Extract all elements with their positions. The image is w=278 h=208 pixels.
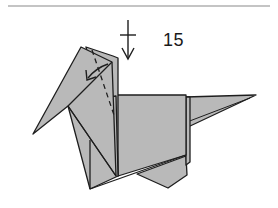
push-down-arrow-icon bbox=[120, 20, 136, 59]
step-number: 15 bbox=[163, 30, 184, 51]
origami-diagram bbox=[0, 0, 278, 208]
origami-bird bbox=[33, 47, 256, 189]
